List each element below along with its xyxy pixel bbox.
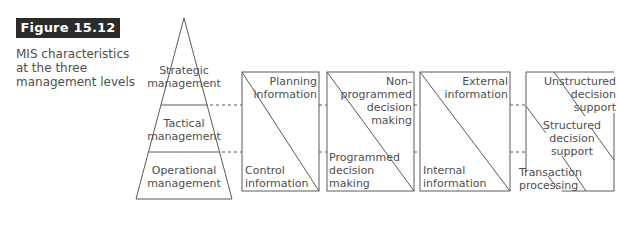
label-unstructured-decision-support: Unstructured decision support xyxy=(540,75,616,114)
label-external-information: External information xyxy=(440,75,508,101)
label-internal-information: Internal information xyxy=(423,164,493,190)
label-planning-information: Planning information xyxy=(252,75,317,101)
label-line: information xyxy=(245,177,315,190)
label-line: management xyxy=(134,177,234,190)
label-non-programmed-decision-making: Non- programmed decision making xyxy=(340,75,412,127)
label-line: Programmed xyxy=(329,151,409,164)
label-line: Strategic xyxy=(134,64,234,77)
label-transaction-processing: Transaction processing xyxy=(519,166,589,192)
label-structured-decision-support: Structured decision support xyxy=(537,119,607,158)
label-line: Transaction xyxy=(519,166,589,179)
label-line: making xyxy=(340,114,412,127)
label-line: management xyxy=(134,130,234,143)
label-line: Operational xyxy=(134,164,234,177)
label-line: information xyxy=(252,88,317,101)
pyramid-level-strategic: Strategic management xyxy=(134,64,234,90)
label-line: External xyxy=(440,75,508,88)
label-line: information xyxy=(423,177,493,190)
label-line: support xyxy=(537,145,607,158)
label-line: Internal xyxy=(423,164,493,177)
label-line: decision xyxy=(540,88,616,101)
label-line: decision xyxy=(329,164,409,177)
label-control-information: Control information xyxy=(245,164,315,190)
label-line: Planning xyxy=(252,75,317,88)
label-line: information xyxy=(440,88,508,101)
label-programmed-decision-making: Programmed decision making xyxy=(329,151,409,190)
label-line: Tactical xyxy=(134,117,234,130)
label-line: support xyxy=(540,101,616,114)
label-line: Unstructured xyxy=(540,75,616,88)
label-line: Non- xyxy=(340,75,412,88)
label-line: programmed xyxy=(340,88,412,101)
label-line: processing xyxy=(519,179,589,192)
label-line: decision xyxy=(340,101,412,114)
label-line: management xyxy=(134,77,234,90)
label-line: making xyxy=(329,177,409,190)
label-line: Structured xyxy=(537,119,607,132)
pyramid-level-tactical: Tactical management xyxy=(134,117,234,143)
label-line: decision xyxy=(537,132,607,145)
pyramid-level-operational: Operational management xyxy=(134,164,234,190)
label-line: Control xyxy=(245,164,315,177)
